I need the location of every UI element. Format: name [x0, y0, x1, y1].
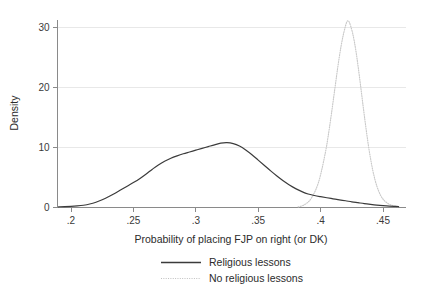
density-plot-figure: 0102030 .2.25.3.35.4.45 Density Probabil… — [0, 0, 424, 298]
legend-label-no-religious-lessons: No religious lessons — [209, 272, 303, 284]
y-tick-label-30: 30 — [38, 22, 50, 33]
y-tick-label-0: 0 — [44, 202, 50, 213]
x-tick-label-.45: .45 — [376, 215, 390, 226]
x-tick-label-.3: .3 — [192, 215, 201, 226]
y-tick-label-20: 20 — [38, 82, 50, 93]
x-tick-label-.4: .4 — [316, 215, 325, 226]
x-tick-label-.35: .35 — [251, 215, 265, 226]
chart-background — [0, 0, 424, 298]
x-tick-label-.25: .25 — [126, 215, 140, 226]
y-axis-title: Density — [8, 95, 20, 131]
x-tick-label-.2: .2 — [67, 215, 76, 226]
x-axis-title: Probability of placing FJP on right (or … — [135, 233, 328, 245]
chart-canvas: 0102030 .2.25.3.35.4.45 Density Probabil… — [0, 0, 424, 298]
legend-label-religious-lessons: Religious lessons — [209, 256, 291, 268]
y-tick-label-10: 10 — [38, 142, 50, 153]
